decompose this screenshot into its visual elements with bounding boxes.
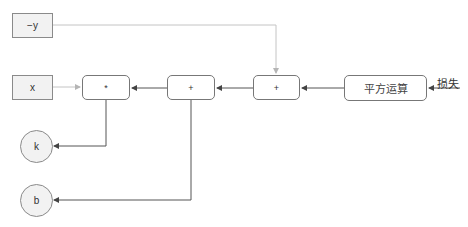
input-x: x (12, 75, 53, 100)
param-k-label: k (34, 141, 39, 152)
input-neg-y-label: −y (27, 20, 38, 31)
edge-mul-to-k (54, 100, 106, 146)
edge-add1-to-b (54, 100, 191, 200)
param-b-label: b (34, 195, 40, 206)
loss-label: 损失 (437, 75, 459, 91)
op-add-1: + (167, 75, 215, 100)
op-square: 平方运算 (344, 75, 427, 101)
op-add-2: + (253, 75, 300, 100)
op-add-1-label: + (188, 83, 193, 93)
op-add-2-label: + (274, 83, 279, 93)
param-b: b (20, 184, 53, 217)
edge-negy-to-add2 (53, 25, 276, 73)
edges-layer (0, 0, 468, 227)
op-square-label: 平方运算 (364, 80, 408, 96)
input-x-label: x (30, 82, 35, 93)
op-multiply: * (82, 75, 130, 100)
param-k: k (20, 130, 53, 163)
op-multiply-label: * (104, 83, 108, 93)
input-neg-y: −y (12, 13, 53, 38)
